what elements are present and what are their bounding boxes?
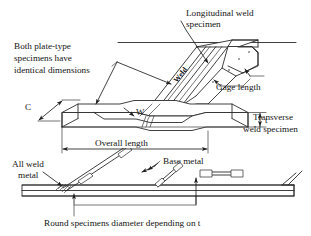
transverse-weld-label-line2: weld specimen: [243, 124, 298, 134]
both-plate-type-label-line3: identical dimensions: [14, 65, 90, 75]
both-plate-type-label-line2: specimens have: [14, 53, 72, 63]
dimension-w-label: W: [136, 107, 145, 117]
all-weld-metal-label-line2: metal: [18, 170, 39, 180]
diagram-canvas: Weld: [0, 0, 311, 236]
longitudinal-weld-label-line2: specimen: [186, 19, 221, 29]
leader-round-specimens: [74, 178, 196, 216]
longitudinal-weld-specimen: Weld: [152, 40, 258, 104]
leader-both-plate-type: [96, 62, 171, 104]
leader-all-weld-metal: [43, 172, 62, 186]
overall-length-label-text: Overall length: [95, 138, 148, 148]
longitudinal-weld-label-line1: Longitudinal weld: [186, 8, 254, 18]
base-metal-label: Base metal: [163, 156, 204, 166]
all-weld-metal-label-line1: All weld: [12, 159, 44, 169]
round-specimens-label: Round specimens diameter depending on t: [44, 218, 201, 228]
gage-length-label: Gage length: [216, 82, 261, 92]
transverse-weld-specimen: [62, 101, 248, 131]
weld-specimen-figure: Weld: [0, 0, 311, 236]
transverse-weld-label-line1: Transverse: [253, 112, 293, 122]
dimension-c-label: C: [25, 102, 31, 112]
both-plate-type-label-line1: Both plate-type: [14, 41, 71, 51]
